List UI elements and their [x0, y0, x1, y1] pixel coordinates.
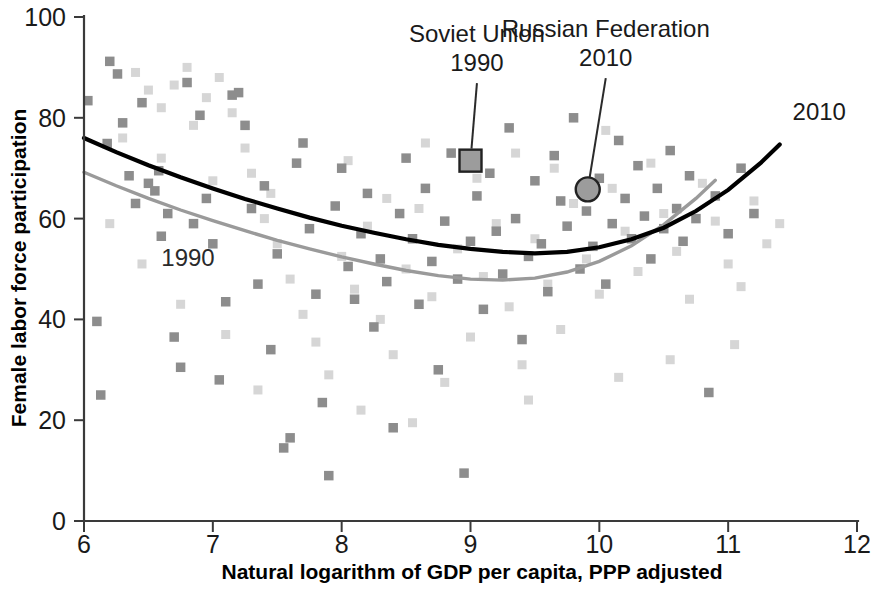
- scatter-point: [736, 163, 746, 173]
- scatter-point: [659, 209, 668, 218]
- highlight-marker-circle: [576, 177, 600, 201]
- scatter-point: [653, 184, 663, 194]
- scatter-point: [466, 237, 476, 247]
- scatter-point: [247, 204, 257, 214]
- scatter-point: [614, 136, 624, 146]
- scatter-point: [382, 277, 392, 287]
- scatter-point: [691, 214, 701, 224]
- scatter-point: [118, 133, 127, 142]
- scatter-point: [479, 305, 489, 315]
- scatter-point: [389, 350, 398, 359]
- scatter-point: [633, 267, 642, 276]
- scatter-point: [614, 373, 623, 382]
- y-axis: 020406080100: [24, 3, 84, 535]
- scatter-point: [137, 259, 146, 268]
- scatter-point: [266, 345, 276, 355]
- scatter-point: [195, 111, 205, 121]
- curve-label-2010: 2010: [793, 98, 846, 125]
- annotations-layer: Soviet Union1990Russian Federation2010: [409, 15, 710, 201]
- scatter-point: [157, 154, 166, 163]
- scatter-point: [601, 126, 610, 135]
- scatter-point: [330, 201, 340, 211]
- scatter-point: [113, 69, 123, 79]
- scatter-point: [633, 161, 643, 171]
- scatter-point: [640, 211, 650, 221]
- scatter-point: [601, 279, 611, 289]
- scatter-point: [737, 282, 746, 291]
- scatter-point: [363, 189, 373, 199]
- annotation-soviet-union: Soviet Union1990: [409, 20, 545, 171]
- scatter-point: [569, 113, 579, 123]
- scatter-point: [685, 171, 695, 181]
- x-tick-label: 11: [715, 530, 741, 558]
- scatter-point: [260, 181, 270, 191]
- scatter-point: [517, 335, 527, 345]
- scatter-point: [723, 229, 733, 239]
- scatter-point: [711, 217, 720, 226]
- scatter-point: [582, 206, 592, 216]
- scatter-point: [285, 433, 295, 443]
- scatter-point: [472, 191, 482, 201]
- scatter-point: [730, 340, 739, 349]
- scatter-point: [459, 468, 469, 478]
- x-axis: 6789101112: [77, 521, 871, 558]
- scatter-point: [369, 322, 379, 332]
- scatter-point: [253, 279, 262, 289]
- scatter-point: [343, 262, 353, 272]
- scatter-point: [666, 355, 675, 364]
- scatter-point: [382, 194, 391, 203]
- scatter-point: [524, 396, 533, 405]
- scatter-point: [537, 239, 547, 249]
- scatter-point: [105, 219, 114, 228]
- scatter-point: [704, 388, 714, 398]
- scatter-point: [305, 224, 315, 234]
- scatter-point: [208, 176, 217, 185]
- scatter-point: [543, 287, 553, 297]
- scatter-point: [395, 209, 405, 219]
- scatter-point: [247, 169, 256, 178]
- scatter-point: [556, 196, 566, 206]
- scatter-point: [530, 176, 540, 186]
- x-tick-label: 10: [585, 530, 613, 558]
- y-tick-label: 20: [38, 406, 66, 434]
- scatter-plot-svg: 020406080100 6789101112 Natural logarith…: [0, 0, 879, 591]
- x-axis-title: Natural logarithm of GDP per capita, PPP…: [221, 560, 722, 583]
- scatter-point: [724, 259, 733, 268]
- scatter-point: [762, 239, 771, 248]
- scatter-point: [253, 385, 262, 394]
- scatter-point: [440, 216, 450, 226]
- scatter-point: [440, 378, 449, 387]
- scatter-point: [556, 325, 565, 334]
- scatter-point: [176, 300, 185, 309]
- scatter-point: [150, 186, 160, 196]
- scatter-point: [228, 108, 237, 117]
- scatter-point: [356, 406, 365, 415]
- scatter-point: [446, 148, 456, 158]
- scatter-point: [620, 194, 630, 204]
- chart-container: 020406080100 6789101112 Natural logarith…: [0, 0, 879, 591]
- scatter-point: [504, 123, 514, 133]
- scatter-point: [324, 471, 334, 481]
- scatter-point: [665, 146, 675, 156]
- scatter-point: [549, 151, 559, 161]
- y-tick-label: 80: [38, 104, 66, 132]
- scatter-point: [241, 144, 250, 153]
- annotation-leader-line: [471, 83, 476, 148]
- scatter-point: [124, 171, 134, 181]
- scatter-point: [324, 370, 333, 379]
- y-tick-label: 100: [24, 3, 66, 31]
- scatter-point: [221, 330, 230, 339]
- scatter-point: [749, 196, 758, 205]
- scatter-point: [292, 158, 302, 168]
- scatter-point: [414, 204, 423, 213]
- scatter-point: [279, 443, 289, 453]
- scatter-point: [96, 390, 106, 400]
- scatter-point: [298, 138, 308, 148]
- scatter-point: [163, 209, 173, 219]
- scatter-point: [170, 81, 179, 90]
- scatter-point: [485, 168, 495, 178]
- y-tick-label: 40: [38, 305, 66, 333]
- scatter-point: [550, 164, 559, 173]
- scatter-point: [562, 221, 572, 231]
- scatter-point: [646, 159, 655, 168]
